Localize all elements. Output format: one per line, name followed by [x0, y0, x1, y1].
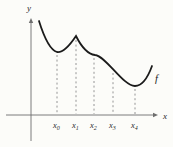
graph-canvas: x0x1x2x3x4 y x f — [0, 0, 173, 147]
figure-background — [0, 0, 173, 147]
y-axis-label: y — [26, 3, 31, 13]
function-graph-figure: x0x1x2x3x4 y x f — [0, 0, 173, 147]
x-axis-label: x — [162, 111, 167, 121]
